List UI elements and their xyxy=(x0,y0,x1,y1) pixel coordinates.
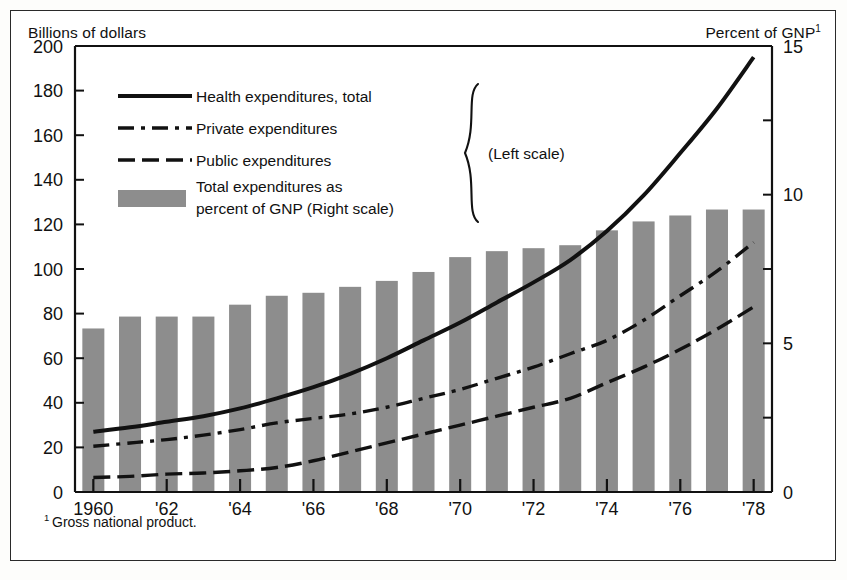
y-tick-label: 0 xyxy=(53,483,63,503)
y-tick-label: 140 xyxy=(33,170,63,190)
bar xyxy=(376,281,398,492)
bar xyxy=(486,251,508,492)
bar xyxy=(633,221,655,492)
x-tick-label: '66 xyxy=(302,499,325,519)
footnote-marker: 1 xyxy=(44,512,49,523)
bar xyxy=(743,210,765,492)
bar xyxy=(119,317,141,492)
bar xyxy=(669,215,691,492)
footnote-text: Gross national product. xyxy=(52,514,197,530)
chart-canvas: 0204060801001201401601802000510151960'62… xyxy=(0,0,847,580)
footnote-group: 1Gross national product. xyxy=(44,512,197,530)
y-tick-label: 80 xyxy=(43,304,63,324)
y-tick-label: 100 xyxy=(33,260,63,280)
bar xyxy=(192,317,214,492)
bar xyxy=(266,296,288,492)
y-tick-label: 40 xyxy=(43,393,63,413)
x-tick-label: '78 xyxy=(742,499,765,519)
figure-container: Billions of dollars Percent of GNP1 0204… xyxy=(0,0,847,580)
legend-label-gnp-bars-line2: percent of GNP (Right scale) xyxy=(196,200,394,217)
y2-tick-label: 5 xyxy=(783,334,793,354)
y2-tick-label: 15 xyxy=(783,37,803,57)
y2-tick-label: 10 xyxy=(783,185,803,205)
legend-brace xyxy=(465,84,478,222)
x-tick-label: '68 xyxy=(375,499,398,519)
legend-label-gnp-bars-line1: Total expenditures as xyxy=(196,178,343,195)
bar xyxy=(339,287,361,492)
x-tick-label: '70 xyxy=(448,499,471,519)
y-tick-label: 60 xyxy=(43,349,63,369)
legend-group: Health expenditures, totalPrivate expend… xyxy=(118,84,565,222)
bar xyxy=(559,245,581,492)
legend-label-private: Private expenditures xyxy=(196,120,338,137)
x-tick-label: '74 xyxy=(595,499,618,519)
y-tick-label: 160 xyxy=(33,126,63,146)
legend-brace-label: (Left scale) xyxy=(488,145,565,162)
y-tick-label: 20 xyxy=(43,438,63,458)
bar xyxy=(449,257,471,492)
y2-tick-label: 0 xyxy=(783,483,793,503)
y-tick-label: 200 xyxy=(33,37,63,57)
x-tick-label: '76 xyxy=(669,499,692,519)
bar xyxy=(596,230,618,492)
x-tick-label: '64 xyxy=(228,499,251,519)
bar xyxy=(412,272,434,492)
legend-label-public: Public expenditures xyxy=(196,152,332,169)
legend-label-health-total: Health expenditures, total xyxy=(196,88,372,105)
bar xyxy=(82,328,104,492)
bar xyxy=(156,317,178,492)
bar xyxy=(706,210,728,492)
legend-swatch-gnp-bars xyxy=(118,190,186,207)
bars-group xyxy=(82,210,764,492)
x-tick-label: '72 xyxy=(522,499,545,519)
y-tick-label: 180 xyxy=(33,81,63,101)
y-tick-label: 120 xyxy=(33,215,63,235)
bar xyxy=(229,305,251,492)
